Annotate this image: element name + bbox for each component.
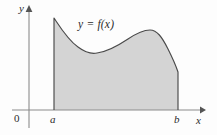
x-axis-label: x xyxy=(196,115,201,126)
lower-bound-label-a: a xyxy=(50,114,56,125)
upper-bound-label-b: b xyxy=(174,114,180,125)
shaded-area-region xyxy=(54,18,178,110)
function-equation-label: y = f(x) xyxy=(78,19,114,31)
y-axis-arrowhead-icon xyxy=(26,5,33,12)
x-axis-arrowhead-icon xyxy=(200,107,206,114)
origin-label: 0 xyxy=(14,113,20,124)
y-axis-label: y xyxy=(19,3,24,14)
area-under-curve-figure: y x 0 a b y = f(x) xyxy=(0,0,217,135)
